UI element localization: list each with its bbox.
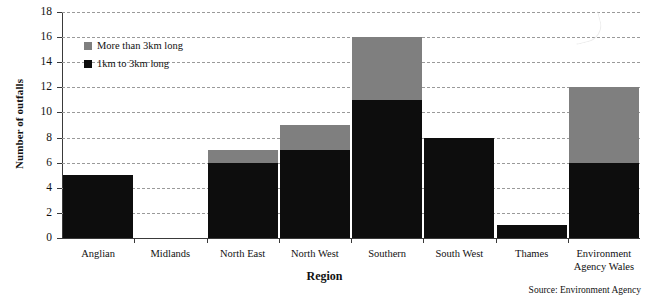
gridline-6 [62,163,640,164]
x-tick-mark [496,238,497,243]
bar-segment-1km-to-3km [280,150,350,238]
source-note: Source: Environment Agency [529,285,641,295]
y-tick-mark-2 [57,213,62,214]
y-tick-mark-18 [57,12,62,13]
x-tick-mark [351,238,352,243]
bar-segment-1km-to-3km [497,225,567,238]
x-tick-mark [134,238,135,243]
x-axis-title: Region [0,269,649,284]
bar-chart: Number of outfalls 024681012141618 More … [0,0,649,298]
bar-segment-more-than-3km [352,37,422,100]
y-tick-label-16: 16 [6,31,52,43]
bar-group [352,37,422,238]
gridline-2 [62,213,640,214]
bar-segment-more-than-3km [280,125,350,150]
bar-segment-1km-to-3km [63,175,133,238]
y-tick-mark-6 [57,163,62,164]
y-tick-mark-10 [57,112,62,113]
y-tick-mark-8 [57,138,62,139]
bar-group [280,125,350,238]
bar-segment-1km-to-3km [352,100,422,238]
legend-label-more-than-3km: More than 3km long [97,40,183,51]
legend-item-more-than-3km: More than 3km long [84,38,183,53]
bar-group [424,138,494,238]
bar-segment-more-than-3km [569,87,639,162]
x-tick-mark [568,238,569,243]
bar-group [208,150,278,238]
y-tick-label-14: 14 [6,56,52,68]
y-tick-label-10: 10 [6,106,52,118]
bar-group [569,87,639,238]
y-tick-mark-4 [57,188,62,189]
y-tick-label-8: 8 [6,132,52,144]
x-tick-mark [279,238,280,243]
y-tick-label-0: 0 [6,232,52,244]
y-tick-mark-14 [57,62,62,63]
bar-segment-1km-to-3km [569,163,639,238]
gridline-8 [62,138,640,139]
gridline-12 [62,87,640,88]
gridline-18 [62,12,640,13]
gridline-10 [62,112,640,113]
chart-legend: More than 3km long 1km to 3km long [84,38,183,74]
bar-segment-1km-to-3km [424,138,494,238]
y-tick-label-6: 6 [6,157,52,169]
legend-swatch-icon-black [84,60,92,68]
bar-group [497,225,567,238]
y-tick-mark-12 [57,87,62,88]
legend-item-1km-to-3km: 1km to 3km long [84,56,183,71]
gridline-4 [62,188,640,189]
x-tick-mark [207,238,208,243]
y-tick-label-18: 18 [6,6,52,18]
y-axis-title: Number of outfalls [13,49,25,199]
y-tick-mark-0 [57,238,62,239]
y-tick-label-2: 2 [6,207,52,219]
bar-segment-more-than-3km [208,150,278,163]
x-category-label-line: Environment [554,248,649,261]
bar-group [63,175,133,238]
x-tick-mark [423,238,424,243]
legend-swatch-icon-gray [84,42,92,50]
bar-segment-1km-to-3km [208,163,278,238]
legend-label-1km-to-3km: 1km to 3km long [97,58,169,69]
y-tick-label-12: 12 [6,81,52,93]
y-tick-label-4: 4 [6,182,52,194]
y-tick-mark-16 [57,37,62,38]
